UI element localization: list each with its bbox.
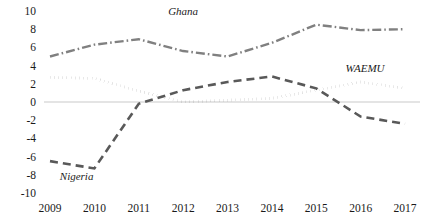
x-axis-tick-label: 2013 — [216, 202, 239, 214]
series-label-ghana: Ghana — [168, 5, 198, 17]
x-axis-tick-label: 2012 — [172, 202, 195, 214]
y-axis-tick-label: 2 — [30, 78, 36, 90]
x-axis-tick-label: 2017 — [394, 202, 417, 214]
y-axis-tick-label: 10 — [25, 5, 37, 17]
series-line-nigeria — [50, 77, 405, 169]
x-axis-tick-label: 2011 — [127, 202, 150, 214]
series-annotation-labels: GhanaWAEMUNigeria — [59, 5, 386, 183]
series-line-ghana — [50, 25, 405, 57]
y-axis-tick-labels: 1086420-2-4-6-8-10 — [21, 5, 37, 199]
series-label-nigeria: Nigeria — [59, 170, 94, 182]
y-axis-tick-label: -2 — [26, 114, 36, 126]
y-axis-tick-label: -6 — [26, 151, 36, 163]
x-axis-tick-label: 2010 — [83, 202, 106, 214]
x-axis-tick-label: 2015 — [305, 202, 328, 214]
y-axis-tick-label: -8 — [26, 169, 36, 181]
y-axis-tick-label: -10 — [21, 187, 37, 199]
chart-container: 1086420-2-4-6-8-10 200920102011201220132… — [0, 0, 426, 218]
y-axis-tick-label: 8 — [30, 23, 36, 35]
y-axis-tick-label: -4 — [26, 132, 36, 144]
data-series-group — [50, 25, 405, 169]
x-axis-tick-label: 2016 — [349, 202, 372, 214]
y-axis-tick-label: 6 — [30, 41, 36, 53]
series-label-waemu: WAEMU — [346, 62, 386, 74]
y-axis-tick-label: 0 — [30, 96, 36, 108]
x-axis-tick-label: 2009 — [39, 202, 62, 214]
x-axis-tick-labels: 200920102011201220132014201520162017 — [39, 202, 417, 214]
line-chart-svg: 1086420-2-4-6-8-10 200920102011201220132… — [0, 0, 426, 218]
y-axis-tick-label: 4 — [30, 60, 36, 72]
x-axis-tick-label: 2014 — [260, 202, 283, 214]
